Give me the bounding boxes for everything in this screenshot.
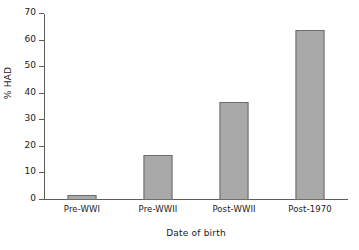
bar-group: Pre-WWII <box>120 14 196 200</box>
bar <box>220 102 249 200</box>
x-axis-tick-label: Post-1970 <box>272 204 348 214</box>
y-axis-tick-label: 40 <box>25 87 36 98</box>
bar <box>296 30 325 200</box>
y-axis-title: % HAD <box>3 53 13 113</box>
y-axis-tick-label: 70 <box>25 7 36 18</box>
bar <box>144 155 173 200</box>
bar-chart-figure: % HAD 010203040506070 Pre-WWIPre-WWIIPos… <box>0 0 359 250</box>
bar <box>68 195 97 200</box>
bar-group: Post-1970 <box>272 14 348 200</box>
y-axis-tick-label: 10 <box>25 166 36 177</box>
bar-group: Post-WWII <box>196 14 272 200</box>
x-axis-title: Date of birth <box>44 228 348 238</box>
y-axis-tick-label: 60 <box>25 34 36 45</box>
x-axis-tick-label: Pre-WWII <box>120 204 196 214</box>
y-axis-tick-label: 30 <box>25 113 36 124</box>
y-axis-tick-label: 0 <box>30 193 36 204</box>
y-axis-tick-label: 50 <box>25 60 36 71</box>
y-axis-tick-label: 20 <box>25 140 36 151</box>
bar-group: Pre-WWI <box>44 14 120 200</box>
x-axis-tick-label: Post-WWII <box>196 204 272 214</box>
x-axis-tick-label: Pre-WWI <box>44 204 120 214</box>
plot-area: 010203040506070 Pre-WWIPre-WWIIPost-WWII… <box>44 14 348 200</box>
